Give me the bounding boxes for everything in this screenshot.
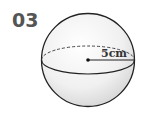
radius-label: 5cm [101,47,127,60]
center-dot [86,58,90,62]
sphere-diagram: 5cm [0,0,146,120]
